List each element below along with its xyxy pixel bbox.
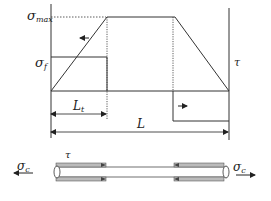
shear-stress-left bbox=[51, 57, 107, 91]
fiber-illustration bbox=[54, 163, 229, 181]
tau-fiber-label: τ bbox=[65, 150, 71, 160]
stress-diagram bbox=[0, 0, 271, 201]
lt-label: Lt bbox=[73, 100, 84, 114]
sigma-c-left-label: σc bbox=[17, 160, 30, 174]
tau-axis-label: τ bbox=[234, 57, 240, 68]
sigma-max-label: σmax bbox=[27, 9, 53, 24]
sigma-c-right-label: σc bbox=[233, 161, 246, 175]
sigma-f-label: σf bbox=[35, 56, 47, 71]
fiber-stress-curve bbox=[51, 17, 229, 91]
l-label: L bbox=[137, 118, 145, 130]
